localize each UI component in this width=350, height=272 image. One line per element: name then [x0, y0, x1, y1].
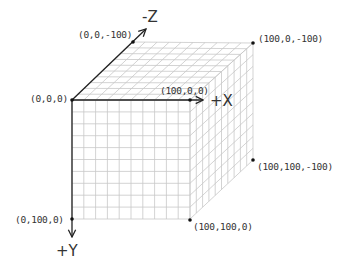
- vertex-label-z100: (0,0,-100): [78, 29, 132, 40]
- vertex-label-x100: (100,0,0): [160, 85, 209, 96]
- vertex-label-xz100: (100,0,-100): [258, 33, 323, 44]
- vertex-dot-xyz100: [251, 158, 255, 162]
- vertex-label-xy100: (100,100,0): [193, 221, 253, 232]
- vertex-dot-z100: [131, 40, 135, 44]
- vertex-dot-origin: [70, 98, 74, 102]
- axis-label-z: -Z: [142, 8, 158, 26]
- vertex-dot-x100: [188, 98, 192, 102]
- vertex-dot-xy100: [188, 218, 192, 222]
- vertex-dot-y100: [70, 217, 74, 221]
- axis-label-y: +Y: [56, 242, 79, 260]
- vertex-dot-xz100: [251, 41, 255, 45]
- vertex-label-y100: (0,100,0): [15, 214, 64, 225]
- axis-label-x: +X: [210, 92, 233, 110]
- coordinate-cube-diagram: (0,0,0) (100,0,0) (0,0,-100) (100,0,-100…: [0, 0, 350, 272]
- vertex-label-origin: (0,0,0): [30, 93, 68, 104]
- front-face-grid: [72, 100, 190, 219]
- vertex-label-xyz100: (100,100,-100): [257, 161, 333, 172]
